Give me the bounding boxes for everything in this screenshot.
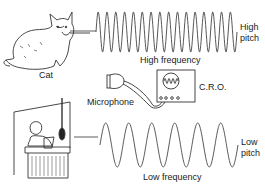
low-frequency-label: Low frequency bbox=[143, 172, 202, 182]
low-frequency-wave bbox=[100, 123, 238, 167]
studio-speaker-icon bbox=[14, 98, 70, 178]
high-frequency-label: High frequency bbox=[140, 55, 201, 65]
low-pitch-label-line2: pitch bbox=[241, 148, 260, 158]
cat-label: Cat bbox=[39, 70, 53, 80]
cat-icon bbox=[4, 12, 90, 69]
high-pitch-label-line1: High bbox=[240, 22, 259, 32]
microphone-label: Microphone bbox=[87, 97, 134, 107]
cro-oscilloscope-icon bbox=[157, 70, 195, 102]
pitch-frequency-diagram: Cat High frequency High pitch Microphone… bbox=[0, 0, 265, 189]
diagram-drawing bbox=[0, 0, 265, 189]
high-frequency-wave bbox=[96, 12, 237, 52]
cro-label: C.R.O. bbox=[199, 82, 227, 92]
low-pitch-label-line1: Low bbox=[241, 137, 258, 147]
high-pitch-label-line2: pitch bbox=[240, 33, 259, 43]
